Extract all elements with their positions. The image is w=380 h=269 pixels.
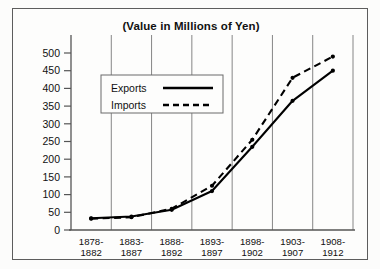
data-point-exports (290, 99, 294, 103)
chart-plot-area: 050100150200250300350400450500 1878-1882… (13, 9, 369, 261)
y-tick-label: 200 (42, 153, 60, 165)
y-tick-label: 450 (42, 64, 60, 76)
y-tick-label: 500 (42, 47, 60, 59)
data-point-imports (210, 184, 214, 188)
x-tick-label: 1878- (79, 236, 104, 247)
data-point-exports (210, 189, 214, 193)
x-tick-label: 1888- (159, 236, 184, 247)
data-point-exports (250, 145, 254, 149)
chart-figure: (Value in Millions of Yen) 0501001502002… (0, 0, 380, 269)
data-point-imports (89, 217, 93, 221)
y-tick-label: 350 (42, 100, 60, 112)
x-tick-label: 1887 (121, 247, 142, 258)
y-tick-label: 150 (42, 171, 60, 183)
x-tick-label: 1903- (280, 236, 305, 247)
y-tick-label: 100 (42, 188, 60, 200)
x-axis-tick-labels: 1878-18821883-18871888-18921893-18971898… (79, 236, 345, 258)
y-tick-label: 0 (54, 224, 60, 236)
x-tick-label: 1908- (321, 236, 346, 247)
y-tick-label: 50 (48, 206, 60, 218)
x-tick-label: 1912 (322, 247, 343, 258)
legend-label-imports: Imports (111, 99, 146, 111)
data-point-imports (170, 207, 174, 211)
chart-legend: ExportsImports (101, 75, 223, 113)
data-point-imports (250, 138, 254, 142)
data-point-imports (129, 215, 133, 219)
x-tick-label: 1893- (200, 236, 225, 247)
y-axis-tick-labels: 050100150200250300350400450500 (42, 47, 71, 236)
x-tick-label: 1882 (80, 247, 101, 258)
data-point-imports (331, 54, 335, 58)
y-tick-label: 250 (42, 135, 60, 147)
chart-frame: (Value in Millions of Yen) 0501001502002… (12, 8, 368, 260)
data-point-exports (331, 69, 335, 73)
legend-label-exports: Exports (111, 82, 147, 94)
x-tick-label: 1897 (201, 247, 222, 258)
data-point-imports (290, 76, 294, 80)
axes-group (69, 35, 355, 230)
x-tick-label: 1892 (161, 247, 182, 258)
x-tick-label: 1902 (242, 247, 263, 258)
x-tick-label: 1883- (119, 236, 144, 247)
y-tick-label: 400 (42, 82, 60, 94)
x-tick-label: 1898- (240, 236, 265, 247)
x-tick-label: 1907 (282, 247, 303, 258)
y-tick-label: 300 (42, 118, 60, 130)
